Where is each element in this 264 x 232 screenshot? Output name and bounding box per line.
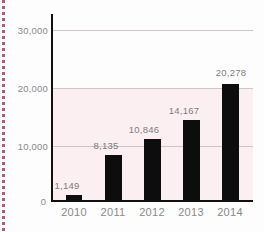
bar-value-2013: 14,167 [160,105,208,116]
bar-value-2011: 8,135 [84,140,128,151]
gridline-30000 [51,30,253,31]
bar-2012 [144,139,161,202]
y-axis-line [51,14,53,202]
x-axis-tick-2012: 2012 [130,206,174,218]
bar-value-2014: 20,278 [207,67,255,78]
y-axis-tick-20000: 20,000 [6,83,48,94]
x-axis-tick-2013: 2013 [169,206,213,218]
y-axis-tick-0: 0 [32,196,46,207]
dashed-vertical-rule-decoration [2,0,5,232]
bar-value-2012: 10,846 [120,124,168,135]
bar-2013 [183,120,200,202]
x-axis-tick-2014: 2014 [208,206,252,218]
bar-chart-figure: 30,000 20,000 10,000 0 1,149 8,135 10,84… [0,0,264,232]
plot-area [51,14,253,202]
x-axis-tick-2010: 2010 [52,206,96,218]
x-axis-tick-2011: 2011 [91,206,135,218]
y-axis-tick-10000: 10,000 [6,141,48,152]
bar-2011 [105,155,122,202]
bar-2014 [222,84,239,202]
x-axis-line [51,200,253,202]
bar-value-2010: 1,149 [45,180,89,191]
y-axis-tick-30000: 30,000 [6,25,48,36]
